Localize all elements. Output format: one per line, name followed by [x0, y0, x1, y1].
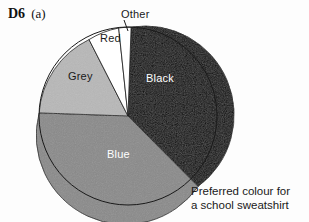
pie-label-blue: Blue: [107, 148, 130, 160]
pie-label-red: Red: [100, 32, 121, 44]
chart-caption: Preferred colour for a school sweatshirt: [191, 184, 290, 212]
pie-label-grey: Grey: [68, 70, 93, 82]
chart-caption-line2: a school sweatshirt: [191, 198, 290, 212]
pie-label-black: Black: [146, 72, 174, 84]
page-root: D6(a): [0, 0, 309, 222]
chart-caption-line1: Preferred colour for: [191, 184, 290, 198]
pie-label-other: Other: [121, 8, 150, 20]
